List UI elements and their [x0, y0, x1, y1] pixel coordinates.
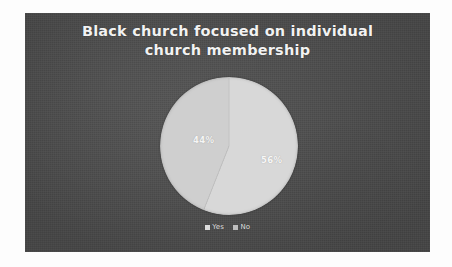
scanned-figure-page: Black church focused on individual churc…: [0, 0, 452, 267]
pie-label-no: 44%: [193, 135, 214, 145]
legend-swatch-no-icon: [233, 225, 238, 230]
chart-title-line-1: Black church focused on individual: [25, 22, 430, 41]
pie-chart: 44% 56%: [160, 77, 298, 215]
chart-title: Black church focused on individual churc…: [25, 22, 430, 60]
chart-legend: Yes No: [25, 223, 430, 231]
chart-title-line-2: church membership: [25, 41, 430, 60]
pie-slices: [160, 77, 298, 215]
legend-item-no[interactable]: No: [233, 223, 250, 231]
legend-item-yes[interactable]: Yes: [205, 223, 224, 231]
legend-label-yes: Yes: [212, 223, 224, 231]
pie-label-yes: 56%: [261, 155, 282, 165]
legend-label-no: No: [240, 223, 250, 231]
chart-panel: Black church focused on individual churc…: [25, 13, 430, 252]
legend-swatch-yes-icon: [205, 225, 210, 230]
